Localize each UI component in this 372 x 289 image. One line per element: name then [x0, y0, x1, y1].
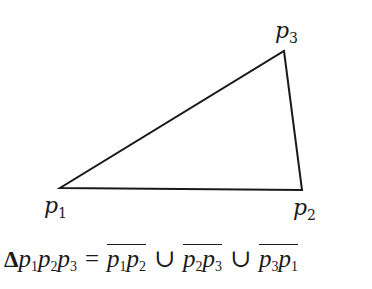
- equals-sign: =: [85, 245, 99, 273]
- vertex-label-p1: p1: [44, 193, 67, 221]
- delta-symbol: Δ: [4, 247, 18, 273]
- vertex-label-p3: p3: [275, 18, 298, 46]
- triangle-figure: p1 p2 p3: [0, 0, 372, 240]
- segment-p3p1: p3p1: [259, 244, 298, 280]
- segment-p1p2: p1p2: [107, 244, 146, 280]
- segment-p2p3: p2p3: [183, 244, 222, 280]
- union-symbol: ∪: [230, 244, 251, 273]
- diagram-canvas: p1 p2 p3 Δ p1p2p3 = p1p2 ∪ p2p3 ∪ p3p1: [0, 0, 372, 289]
- triangle-formula: Δ p1p2p3 = p1p2 ∪ p2p3 ∪ p3p1: [4, 244, 372, 278]
- vertex-label-p2: p2: [293, 195, 316, 223]
- formula-lhs: p1p2p3: [18, 245, 77, 275]
- union-symbol: ∪: [154, 244, 175, 273]
- triangle-shape: [60, 51, 302, 190]
